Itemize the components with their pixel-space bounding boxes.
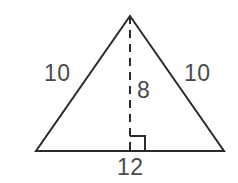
label-right-leg-length: 10 [184, 62, 211, 85]
label-base-length: 12 [117, 156, 144, 179]
label-left-leg-length: 10 [44, 62, 71, 85]
right-angle-icon [130, 136, 145, 151]
geometry-figure: 10 10 8 12 [0, 0, 238, 183]
label-altitude-length: 8 [137, 79, 150, 102]
